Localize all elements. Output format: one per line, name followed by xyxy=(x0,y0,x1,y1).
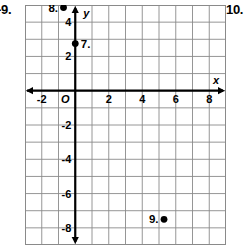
data-point-label: 9. xyxy=(149,213,159,225)
x-axis-arrow-left xyxy=(26,87,33,94)
y-tick-label: 2 xyxy=(65,50,71,62)
y-tick-label: -8 xyxy=(61,222,71,234)
gridlines xyxy=(25,5,226,245)
x-tick-label: 8 xyxy=(206,93,212,105)
exercise-number-left: -9. xyxy=(0,2,11,17)
x-tick-label: 2 xyxy=(106,93,112,105)
y-tick-label: -2 xyxy=(61,119,71,131)
y-axis-label: y xyxy=(82,7,90,19)
data-point-label: 8. xyxy=(48,5,58,14)
y-axis-arrow-up xyxy=(72,6,79,13)
x-axis-label: x xyxy=(212,74,220,86)
y-tick-label: -6 xyxy=(61,188,71,200)
origin-label: O xyxy=(61,93,70,105)
x-axis-arrow-right xyxy=(218,87,225,94)
data-point xyxy=(60,5,67,11)
data-point xyxy=(72,40,79,47)
y-tick-label: 4 xyxy=(65,16,72,28)
x-tick-label: -2 xyxy=(37,93,47,105)
coordinate-grid-graph: -2246824-2-4-6-8Oyx 8.7.9. xyxy=(25,5,226,245)
x-tick-label: 4 xyxy=(139,93,146,105)
x-tick-label: 6 xyxy=(173,93,179,105)
exercise-number-right: 10. xyxy=(226,2,243,17)
y-axis-arrow-down xyxy=(72,237,79,244)
coordinate-plane-svg: -2246824-2-4-6-8Oyx 8.7.9. xyxy=(25,5,226,245)
data-point-label: 7. xyxy=(81,38,91,50)
worksheet-figure: -9. 10. -2246824-2-4-6-8Oyx 8.7.9. xyxy=(0,0,250,248)
y-tick-label: -4 xyxy=(61,153,72,165)
data-point xyxy=(161,216,168,223)
